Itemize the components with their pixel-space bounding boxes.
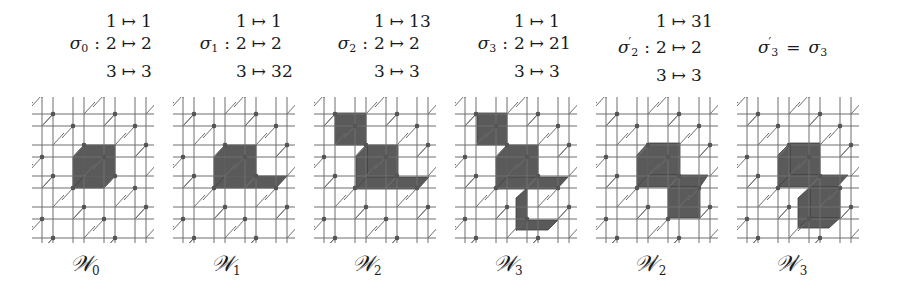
mapping-to: 1 bbox=[271, 11, 282, 31]
lattice-node bbox=[807, 217, 811, 221]
lattice-node bbox=[333, 112, 337, 116]
mapping-from: 1 bbox=[374, 11, 385, 31]
lattice-node bbox=[787, 143, 791, 147]
lattice-node bbox=[505, 205, 509, 209]
lattice-node bbox=[787, 205, 791, 209]
shaded-face bbox=[507, 145, 538, 177]
lattice-panel bbox=[173, 97, 313, 245]
mapping-from: 3 bbox=[106, 61, 117, 81]
lattice-node bbox=[818, 236, 822, 240]
sigma-symbol: σ3 bbox=[478, 33, 497, 53]
mapping-row: σ3:2↦21 bbox=[458, 32, 571, 60]
lattice-node bbox=[192, 112, 196, 116]
sigma-subscript: 3 bbox=[820, 46, 827, 59]
lattice-node bbox=[243, 155, 247, 159]
lattice-node bbox=[756, 112, 760, 116]
lattice-node bbox=[285, 205, 289, 209]
lattice-node bbox=[212, 186, 216, 190]
sigma-subscript: 2 bbox=[349, 42, 356, 55]
mapping-to: 3 bbox=[549, 61, 560, 81]
mapping-to: 2 bbox=[409, 33, 420, 53]
sigma-name: σ bbox=[809, 37, 821, 57]
lattice-node bbox=[615, 236, 619, 240]
lattice-node bbox=[243, 217, 247, 221]
lattice-node bbox=[745, 155, 749, 159]
sigma-subscript: 1 bbox=[211, 42, 218, 55]
lattice-node bbox=[474, 174, 478, 178]
lattice-node bbox=[223, 143, 227, 147]
mapping-expression: 2↦2 bbox=[656, 36, 702, 58]
shaded-face bbox=[810, 187, 840, 218]
maps-to-arrow: ↦ bbox=[122, 11, 136, 31]
lattice-node bbox=[144, 205, 148, 209]
lattice-node bbox=[102, 217, 106, 221]
mapping-lhs: σ′2: bbox=[600, 32, 656, 64]
lattice-node bbox=[776, 186, 780, 190]
label-subscript: 3 bbox=[515, 264, 523, 278]
panel-label: 𝒲0 bbox=[70, 251, 100, 278]
lattice-node bbox=[494, 124, 498, 128]
lattice-node bbox=[677, 174, 681, 178]
sigma3-prime-equation: σ′3=σ3 bbox=[758, 32, 827, 64]
mapping-expression: 2↦21 bbox=[514, 32, 571, 54]
lattice-node bbox=[556, 186, 560, 190]
maps-to-arrow: ↦ bbox=[672, 11, 686, 31]
mapping-row: 3↦3 bbox=[318, 60, 431, 82]
maps-to-arrow: ↦ bbox=[390, 33, 404, 53]
mapping-expression: 3↦3 bbox=[106, 60, 152, 82]
mapping-expression: 1↦1 bbox=[236, 10, 282, 32]
lattice-node bbox=[525, 217, 529, 221]
lattice-node bbox=[40, 155, 44, 159]
maps-to-arrow: ↦ bbox=[252, 11, 266, 31]
mapping-from: 2 bbox=[374, 33, 385, 53]
lattice-node bbox=[505, 143, 509, 147]
mapping-row: 1↦1 bbox=[180, 10, 293, 32]
lattice-node bbox=[333, 236, 337, 240]
lattice-node bbox=[635, 124, 639, 128]
sigma-symbol: σ′2 bbox=[618, 37, 638, 57]
lattice-node bbox=[364, 143, 368, 147]
lattice-node bbox=[113, 236, 117, 240]
maps-to-arrow: ↦ bbox=[672, 37, 686, 57]
maps-to-arrow: ↦ bbox=[672, 65, 686, 85]
mapping-block: 1↦13σ2:2↦23↦3 bbox=[318, 10, 431, 82]
lattice-node bbox=[646, 143, 650, 147]
mapping-to: 32 bbox=[271, 61, 293, 81]
lattice-node bbox=[849, 143, 853, 147]
lattice-node bbox=[567, 143, 571, 147]
maps-to-arrow: ↦ bbox=[252, 61, 266, 81]
lattice-node bbox=[71, 186, 75, 190]
lattice-node bbox=[463, 217, 467, 221]
mapping-row: 3↦3 bbox=[600, 64, 713, 86]
lattice-node bbox=[181, 217, 185, 221]
mapping-row: 1↦1 bbox=[458, 10, 571, 32]
lattice-node bbox=[849, 205, 853, 209]
lattice-node bbox=[697, 186, 701, 190]
maps-to-arrow: ↦ bbox=[530, 11, 544, 31]
mapping-from: 3 bbox=[656, 65, 667, 85]
maps-to-arrow: ↦ bbox=[122, 33, 136, 53]
mapping-block: 1↦31σ′2:2↦23↦3 bbox=[600, 10, 713, 86]
lattice-node bbox=[807, 155, 811, 159]
lattice-node bbox=[818, 112, 822, 116]
lattice-node bbox=[333, 174, 337, 178]
panel-label: 𝒲3 bbox=[493, 251, 523, 278]
lattice-node bbox=[51, 112, 55, 116]
mapping-from: 2 bbox=[236, 33, 247, 53]
mapping-lhs: σ2: bbox=[318, 32, 374, 60]
lattice-panel bbox=[32, 97, 172, 245]
maps-to-arrow: ↦ bbox=[390, 11, 404, 31]
sigma-name: σ bbox=[758, 37, 770, 57]
mapping-lhs: σ1: bbox=[180, 32, 236, 60]
lattice-node bbox=[254, 174, 258, 178]
mapping-expression: 1↦13 bbox=[374, 10, 431, 32]
mapping-to: 2 bbox=[141, 33, 152, 53]
mapping-row: 3↦32 bbox=[180, 60, 293, 82]
lattice-node bbox=[556, 124, 560, 128]
lattice-node bbox=[615, 112, 619, 116]
mapping-expression: 3↦3 bbox=[514, 60, 560, 82]
mapping-from: 2 bbox=[106, 33, 117, 53]
script-w-symbol: 𝒲 bbox=[352, 251, 375, 276]
lattice-node bbox=[463, 155, 467, 159]
mapping-from: 2 bbox=[514, 33, 525, 53]
